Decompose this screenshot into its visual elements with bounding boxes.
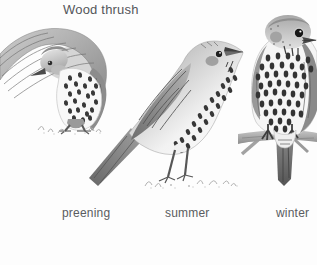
summer-eye [216,51,222,57]
bird-illustration-summer [85,36,247,196]
bird-illustration-winter [238,12,317,196]
winter-eye [295,29,303,37]
caption-preening: preening [62,207,110,220]
figure-title: Wood thrush [63,3,139,17]
preening-eye [48,61,53,66]
summer-ground-grass [145,181,238,189]
wood-thrush-figure-panel: Wood thrush [0,0,317,265]
caption-summer: summer [165,207,210,220]
preening-beak [30,68,46,76]
winter-ear-patch [270,32,282,43]
caption-winter: winter [276,207,309,220]
